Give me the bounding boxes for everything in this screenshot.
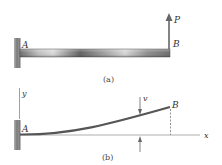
deflection-label-v: v bbox=[143, 94, 148, 103]
y-axis-label: y bbox=[21, 89, 27, 98]
fixed-wall-b bbox=[14, 120, 20, 150]
figure-a: A B P (a) bbox=[14, 13, 181, 84]
x-axis-label: x bbox=[204, 131, 209, 140]
figure-b: y x A B v (b) bbox=[14, 88, 209, 162]
label-a-fixed-b: A bbox=[21, 124, 29, 134]
deflection-arrow-bottom bbox=[138, 136, 142, 152]
caption-b: (b) bbox=[102, 153, 113, 162]
label-b-free: B bbox=[172, 39, 180, 49]
fixed-wall-a bbox=[14, 38, 20, 68]
caption-a: (a) bbox=[103, 75, 114, 84]
label-a-fixed: A bbox=[21, 40, 29, 50]
cantilever-beam-diagram: A B P (a) y x A B v (b) bbox=[0, 0, 222, 165]
label-load-p: P bbox=[173, 15, 181, 25]
load-arrow-p bbox=[166, 13, 173, 49]
deflection-curve bbox=[20, 107, 170, 135]
beam-a bbox=[20, 49, 170, 57]
label-b-free-b: B bbox=[171, 100, 179, 110]
deflection-arrow-top bbox=[138, 97, 142, 115]
